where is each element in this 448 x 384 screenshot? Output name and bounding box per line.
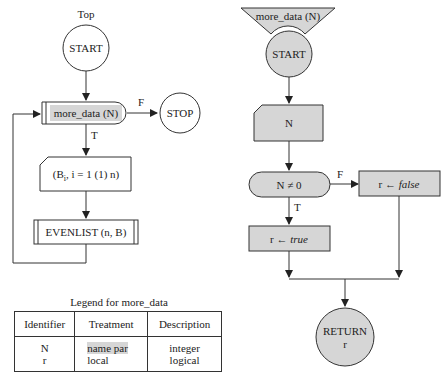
right-flowchart: more_data (N) START N N ≠ 0 F r ← false …: [241, 8, 440, 366]
left-title: Top: [78, 8, 95, 20]
svg-text:START: START: [69, 42, 103, 54]
more-data-call-decision: more_data (N): [42, 102, 126, 124]
table-row: Nr name parlocal integerlogical: [15, 337, 222, 372]
svg-text:N: N: [285, 117, 293, 129]
entry-header: more_data (N): [241, 8, 335, 34]
true-label: T: [294, 201, 301, 213]
legend-table: Identifier Treatment Description Nr name…: [14, 311, 222, 372]
column-header: Identifier: [15, 312, 75, 337]
svg-text:START: START: [272, 48, 306, 60]
svg-text:r ← true: r ← true: [270, 233, 308, 245]
svg-text:N ≠ 0: N ≠ 0: [277, 179, 302, 191]
svg-text:r: r: [343, 338, 347, 350]
assign-true-node: r ← true: [249, 226, 330, 251]
svg-text:more_data (N): more_data (N): [54, 107, 119, 120]
svg-text:r ← false: r ← false: [379, 178, 420, 190]
legend-title: Legend for more_data: [14, 296, 224, 308]
false-label: F: [138, 96, 144, 108]
false-label: F: [337, 168, 343, 180]
decision-node: N ≠ 0: [249, 172, 330, 197]
return-terminal: RETURN r: [316, 308, 374, 366]
svg-text:more_data (N): more_data (N): [256, 10, 321, 23]
input-node: (Bi, i = 1 (1) n): [40, 157, 131, 191]
input-node: N: [254, 105, 323, 141]
svg-text:STOP: STOP: [167, 107, 194, 119]
column-header: Treatment: [75, 312, 148, 337]
left-flowchart: Top START more_data (N) F STOP T (Bi, i …: [13, 8, 200, 263]
svg-text:RETURN: RETURN: [323, 325, 367, 337]
start-terminal: START: [266, 31, 312, 77]
stop-terminal: STOP: [160, 93, 200, 133]
true-label: T: [91, 129, 98, 141]
svg-text:EVENLIST (n, B): EVENLIST (n, B): [46, 226, 127, 239]
start-terminal: START: [63, 25, 109, 71]
column-header: Description: [148, 312, 222, 337]
assign-false-node: r ← false: [359, 171, 440, 196]
evenlist-subroutine: EVENLIST (n, B): [34, 220, 138, 244]
legend: Legend for more_data Identifier Treatmen…: [14, 296, 224, 372]
